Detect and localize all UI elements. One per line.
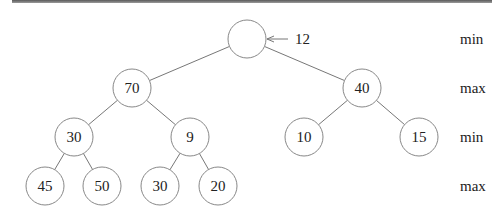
node-value: 50: [95, 178, 110, 194]
tree-node-n50: 50: [83, 167, 121, 205]
level-label-max: max: [460, 178, 486, 194]
node-value: 30: [153, 178, 168, 194]
tree-node-n30b: 30: [141, 167, 179, 205]
node-value: 10: [297, 129, 312, 145]
tree-node-n70: 70: [113, 69, 151, 107]
node-value: 70: [125, 80, 140, 96]
tree-node-n10: 10: [285, 118, 323, 156]
tree-edge: [199, 153, 208, 169]
tree-node-n20: 20: [199, 167, 237, 205]
root-value-annotation: 12: [295, 31, 310, 47]
node-value: 45: [38, 178, 53, 194]
level-label-min: min: [460, 31, 484, 47]
tree-edge: [170, 153, 180, 170]
tree-node-n9: 9: [171, 118, 209, 156]
node-circle: [228, 20, 266, 58]
node-value: 20: [211, 178, 226, 194]
tree-node-root: [228, 20, 266, 58]
tree-edge: [55, 153, 65, 169]
tree-edge: [319, 100, 348, 124]
level-label-min: min: [460, 129, 484, 145]
tree-node-n30a: 30: [55, 118, 93, 156]
node-value: 9: [186, 129, 194, 145]
level-label-max: max: [460, 80, 486, 96]
tree-edge: [147, 100, 176, 124]
tree-edge: [83, 153, 92, 169]
node-value: 40: [355, 80, 370, 96]
tree-edge: [376, 100, 404, 124]
node-value: 15: [412, 129, 427, 145]
tree-edge: [264, 46, 344, 80]
tree-edge: [149, 46, 229, 80]
game-tree: 704030910154550302012minmaxminmax: [0, 0, 497, 222]
tree-node-n15: 15: [400, 118, 438, 156]
tree-edge: [89, 100, 118, 124]
node-value: 30: [67, 129, 82, 145]
tree-node-n45: 45: [26, 167, 64, 205]
tree-node-n40: 40: [343, 69, 381, 107]
